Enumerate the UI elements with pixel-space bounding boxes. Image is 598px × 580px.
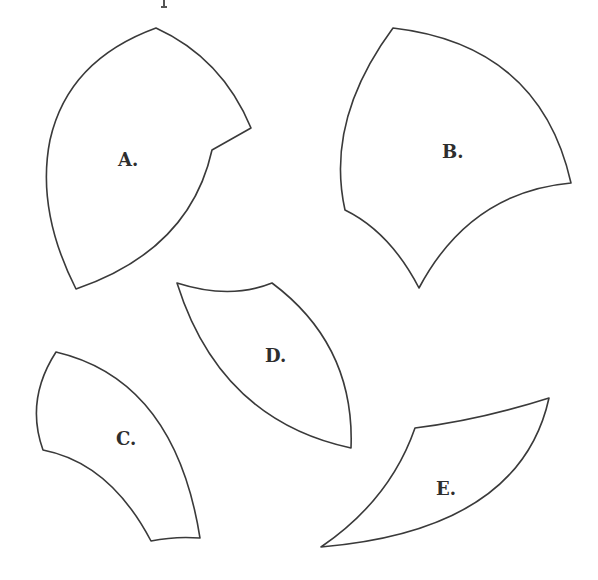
shape-b-label: B.	[442, 143, 463, 161]
shape-d-label: D.	[265, 347, 286, 365]
puzzle-figure: A. B. C. D. E.	[0, 0, 598, 580]
shape-a-outline	[46, 28, 251, 289]
shape-a-label: A.	[118, 151, 138, 169]
shape-e-label: E.	[436, 480, 456, 498]
shape-e-outline	[321, 398, 549, 547]
shape-c-label: C.	[116, 430, 136, 448]
shapes-canvas	[0, 0, 598, 580]
cropped-text-fragment	[161, 0, 167, 4]
